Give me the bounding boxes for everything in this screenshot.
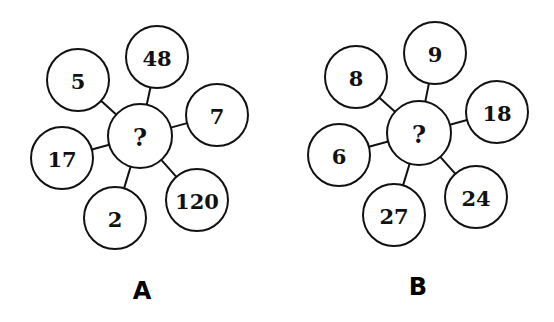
- connector-line: [403, 163, 410, 186]
- connector-line: [101, 101, 117, 115]
- puzzle-b: 918242768?B: [308, 22, 528, 301]
- node-value: 8: [349, 66, 364, 91]
- number-node: 27: [363, 184, 425, 246]
- number-node: 5: [47, 49, 109, 111]
- number-node: 7: [186, 84, 248, 146]
- number-node: 17: [31, 127, 93, 189]
- connector-line: [449, 120, 467, 125]
- node-value: 6: [332, 144, 347, 169]
- number-node: 48: [126, 26, 188, 88]
- connector-line: [425, 83, 429, 102]
- connector-line: [369, 141, 389, 147]
- puzzle-label: B: [409, 273, 427, 301]
- number-node: 24: [445, 166, 507, 228]
- puzzle-a: 4871202175?A: [31, 26, 248, 305]
- connector-line: [161, 159, 177, 177]
- node-value: 120: [175, 189, 219, 214]
- number-node: 120: [166, 169, 228, 231]
- node-value: 24: [461, 186, 490, 211]
- node-value: 5: [71, 69, 86, 94]
- connector-line: [124, 166, 131, 189]
- node-value: 9: [428, 42, 443, 67]
- number-node: 6: [308, 124, 370, 186]
- number-node: 8: [325, 46, 387, 108]
- unknown-value: ?: [412, 120, 426, 149]
- connector-line: [170, 123, 187, 128]
- center-node: ?: [387, 101, 451, 165]
- number-node: 18: [466, 81, 528, 143]
- connector-line: [440, 156, 456, 174]
- connector-line: [379, 98, 396, 113]
- number-node: 9: [404, 22, 466, 84]
- node-value: 17: [47, 147, 76, 172]
- connector-line: [147, 87, 151, 105]
- node-value: 7: [210, 104, 225, 129]
- node-value: 27: [379, 204, 408, 229]
- node-value: 48: [142, 46, 171, 71]
- puzzle-label: A: [133, 277, 152, 305]
- unknown-value: ?: [133, 123, 147, 152]
- node-value: 18: [482, 101, 511, 126]
- center-node: ?: [108, 104, 172, 168]
- number-node: 2: [84, 187, 146, 249]
- puzzle-canvas: 4871202175?A 918242768?B: [0, 0, 554, 322]
- connector-line: [92, 144, 110, 149]
- node-value: 2: [108, 207, 123, 232]
